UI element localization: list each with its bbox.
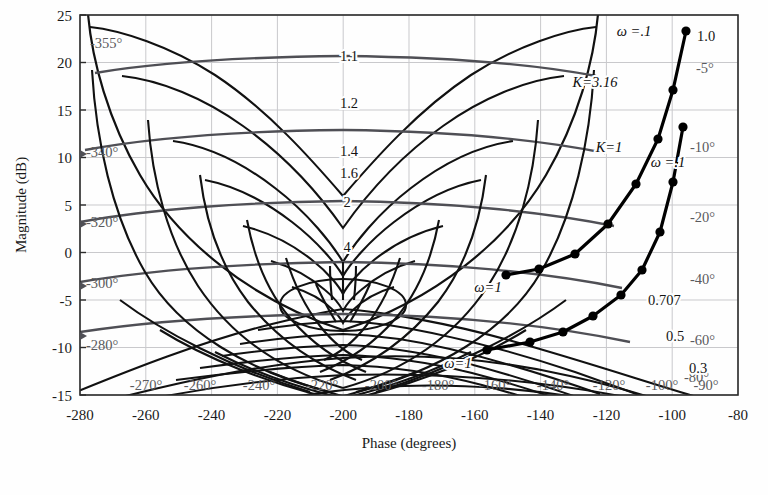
y-tick-label: 5 — [65, 198, 73, 214]
y-tick-label: 20 — [57, 55, 72, 71]
phase-contour-label: -120° — [593, 377, 626, 393]
omega-end-label-k316: ω=1 — [474, 279, 501, 295]
phase-contour-label: -60° — [690, 332, 715, 348]
y-axis-title: Magnitude (dB) — [13, 157, 30, 253]
x-tick-label: -240 — [198, 407, 226, 423]
m-contour-label: 1.6 — [340, 165, 358, 181]
phase-contour-label: -10° — [690, 139, 715, 155]
phase-contour-label: -240° — [243, 377, 276, 393]
m-contour-label: 0.3 — [689, 360, 707, 376]
x-tick-label: -140 — [527, 407, 555, 423]
series-label-k1: K=1 — [595, 139, 623, 155]
x-tick-label: -100 — [658, 407, 686, 423]
x-axis-title: Phase (degrees) — [362, 435, 457, 452]
series-label-k316: K=3.16 — [572, 74, 619, 90]
phase-contour-label: -5° — [696, 60, 714, 76]
phase-contour-label: -200° — [365, 377, 398, 393]
phase-contour-label: -260° — [184, 377, 217, 393]
m-contour-label: 0.5 — [666, 328, 684, 344]
y-tick-label: 25 — [57, 8, 72, 24]
phase-contour-label: -280° — [86, 337, 119, 353]
x-tick-label: -80 — [728, 407, 748, 423]
nichols-chart-figure: 25 20 15 10 5 0 -5 -10 -15 -280 -260 -24… — [0, 0, 768, 495]
omega-start-label-k1: ω =.1 — [651, 154, 686, 170]
phase-contour-label: -320° — [86, 214, 119, 230]
omega-start-label-k316: ω =.1 — [617, 23, 652, 39]
phase-contour-label: -160° — [479, 377, 512, 393]
phase-contour-label: -220° — [306, 377, 339, 393]
x-tick-label: -160 — [461, 407, 489, 423]
y-tick-label: 15 — [57, 103, 72, 119]
m-contour-label: 1.4 — [340, 143, 359, 159]
phase-contour-label: -100° — [646, 377, 679, 393]
phase-contour-label: -300° — [86, 275, 119, 291]
m-contour-label: 4 — [343, 239, 351, 255]
x-tick-label: -180 — [395, 407, 423, 423]
y-tick-label: -5 — [60, 293, 73, 309]
x-tick-label: -120 — [593, 407, 621, 423]
phase-contour-label: -20° — [690, 209, 715, 225]
x-tick-label: -280 — [66, 407, 94, 423]
chart-svg: 25 20 15 10 5 0 -5 -10 -15 -280 -260 -24… — [0, 0, 768, 495]
phase-contour-label: -355° — [90, 35, 123, 51]
phase-contour-label: -180° — [422, 377, 455, 393]
phase-contour-label: -340° — [86, 144, 119, 160]
x-tick-label: -200 — [329, 407, 357, 423]
m-contour-label: 1.1 — [340, 48, 358, 64]
phase-contour-label: -90° — [693, 377, 718, 393]
y-tick-label: 0 — [65, 245, 73, 261]
phase-contour-label: -40° — [690, 271, 715, 287]
x-tick-label: -260 — [132, 407, 160, 423]
x-tick-label: -220 — [264, 407, 292, 423]
m-contour-label: 0.707 — [648, 292, 681, 308]
phase-contour-label: -270° — [130, 377, 163, 393]
phase-contour-label: -140° — [537, 377, 570, 393]
m-contour-label: 1.0 — [697, 28, 715, 44]
y-tick-label: 10 — [57, 150, 72, 166]
omega-end-label-k1: ω=1 — [444, 355, 471, 371]
m-contour-label: 2 — [343, 194, 350, 210]
y-tick-label: -10 — [52, 340, 72, 356]
y-tick-label: -15 — [52, 388, 72, 404]
m-contour-label: 1.2 — [340, 95, 358, 111]
